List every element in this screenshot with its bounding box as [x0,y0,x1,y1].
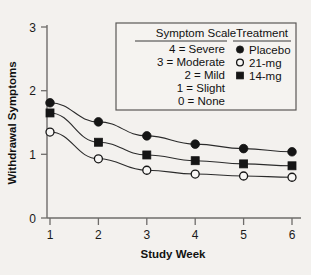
series-layer [46,98,297,181]
data-point [288,147,297,156]
legend-label-21mg: 21-mg [249,57,282,69]
data-point [94,118,103,127]
data-point [239,144,248,153]
data-point [288,173,296,181]
x-tick-label-4: 4 [192,228,199,242]
legend-marker-14mg-icon [237,72,244,79]
withdrawal-symptoms-line-chart: 0 1 2 3 1 2 3 4 5 6 Study Week Withdrawa… [0,0,311,275]
y-tick-label-1: 1 [29,148,36,162]
y-tick-label-2: 2 [29,84,36,98]
legend-label-placebo: Placebo [249,44,291,56]
legend-scale-item-2: 2 = Mild [184,69,225,81]
x-axis-title: Study Week [141,248,207,260]
data-point [191,140,200,149]
data-point [191,170,199,178]
x-tick-label-1: 1 [47,228,54,242]
x-tick-label-2: 2 [95,228,102,242]
legend-marker-21mg-icon [237,59,244,66]
series-21-mg [46,128,296,181]
data-point [143,151,151,159]
x-tick-label-6: 6 [289,228,296,242]
legend-marker-placebo-icon [236,46,243,53]
y-tick-label-3: 3 [29,21,36,35]
x-tick-label-3: 3 [143,228,150,242]
y-tick-label-0: 0 [29,212,36,226]
data-point [94,138,102,146]
data-point [240,172,248,180]
legend-header-symptom-scale: Symptom Scale [156,27,237,39]
data-point [46,109,54,117]
x-tick-label-5: 5 [240,228,247,242]
series-line [50,113,292,166]
data-point [191,157,199,165]
chart-legend: Symptom Scale Treatment 4 = Severe 3 = M… [116,23,296,110]
legend-scale-item-0: 0 = None [178,95,225,107]
legend-scale-item-4: 4 = Severe [169,43,225,55]
data-point [94,155,102,163]
legend-label-14mg: 14-mg [249,70,282,82]
x-axis-ticks: 1 2 3 4 5 6 [47,218,296,242]
data-point [46,98,55,107]
data-point [240,160,248,168]
legend-scale-item-3: 3 = Moderate [157,56,225,68]
chart-container: 0 1 2 3 1 2 3 4 5 6 Study Week Withdrawa… [0,0,311,275]
data-point [143,166,151,174]
y-axis-title: Withdrawal Symptoms [6,61,18,184]
legend-scale-item-1: 1 = Slight [177,82,226,94]
data-point [143,132,152,141]
data-point [46,128,54,136]
data-point [288,162,296,170]
legend-header-treatment: Treatment [236,27,289,39]
y-axis-ticks: 0 1 2 3 [29,21,47,226]
